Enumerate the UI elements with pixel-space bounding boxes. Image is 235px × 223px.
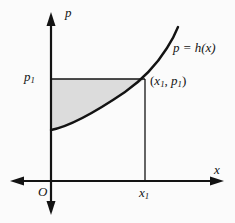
x-axis-arrow-left bbox=[10, 177, 24, 186]
point-x-subscript: 1 bbox=[160, 79, 164, 89]
p1-subscript: 1 bbox=[31, 75, 35, 85]
origin-label: O bbox=[38, 185, 47, 198]
p-axis-arrow-down bbox=[47, 201, 56, 215]
x1-base: x bbox=[139, 185, 145, 200]
point-p-subscript: 1 bbox=[178, 79, 182, 89]
p1-tick-label: p1 bbox=[24, 70, 35, 83]
paren-close: ) bbox=[182, 73, 186, 88]
x-axis-arrow-right bbox=[210, 177, 224, 186]
curve-equation-label: p = h(x) bbox=[173, 41, 216, 54]
point-coordinate-label: (x1, p1) bbox=[150, 74, 186, 87]
point-p-base: p bbox=[171, 73, 178, 88]
x1-subscript: 1 bbox=[145, 191, 149, 201]
p-axis-arrow-up bbox=[47, 12, 56, 26]
p-axis-label: p bbox=[65, 6, 72, 19]
x-axis-label: x bbox=[214, 163, 220, 176]
p1-base: p bbox=[24, 69, 31, 84]
x1-tick-label: x1 bbox=[139, 186, 149, 199]
graph-canvas bbox=[0, 0, 235, 223]
figure-container: p x O p1 x1 p = h(x) (x1, p1) bbox=[0, 0, 235, 223]
